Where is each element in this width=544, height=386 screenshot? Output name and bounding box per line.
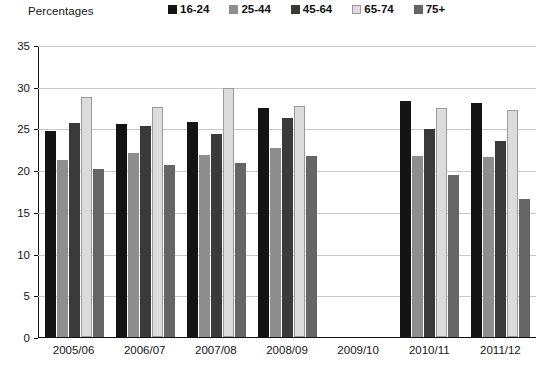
bar[interactable] xyxy=(448,175,459,337)
bar[interactable] xyxy=(69,123,80,337)
bar[interactable] xyxy=(282,118,293,337)
bar[interactable] xyxy=(211,134,222,337)
y-axis-tick-label: 30 xyxy=(0,82,30,94)
legend-label: 45-64 xyxy=(303,4,332,16)
x-axis-tick-label: 2006/07 xyxy=(109,344,180,364)
bar-group xyxy=(181,46,252,337)
x-axis-tick-label: 2009/10 xyxy=(323,344,394,364)
bar-group-bars xyxy=(110,46,181,337)
bar-group-bars xyxy=(394,46,465,337)
x-axis-line xyxy=(38,337,536,338)
legend-item[interactable]: 16-24 xyxy=(168,4,209,16)
x-axis-tick-label: 2011/12 xyxy=(465,344,536,364)
bar[interactable] xyxy=(412,156,423,337)
bar[interactable] xyxy=(116,124,127,337)
y-axis-tick-label: 5 xyxy=(0,290,30,302)
bar-chart: Percentages 16-2425-4445-6465-7475+ 0510… xyxy=(0,0,544,386)
y-axis-tick xyxy=(34,46,38,47)
bar[interactable] xyxy=(270,148,281,337)
legend-item[interactable]: 75+ xyxy=(414,4,446,16)
bar[interactable] xyxy=(235,163,246,337)
bar-groups xyxy=(39,46,536,337)
bar[interactable] xyxy=(294,106,305,337)
bar-group xyxy=(465,46,536,337)
x-axis-tick-label: 2010/11 xyxy=(394,344,465,364)
bar[interactable] xyxy=(306,156,317,337)
bar[interactable] xyxy=(471,103,482,337)
bar-group xyxy=(394,46,465,337)
bar-group xyxy=(323,46,394,337)
bar[interactable] xyxy=(507,110,518,337)
legend-swatch-icon xyxy=(414,5,423,14)
bar-group xyxy=(39,46,110,337)
bar-group xyxy=(110,46,181,337)
y-axis-title: Percentages xyxy=(28,5,94,17)
bar-group-bars xyxy=(252,46,323,337)
chart-legend: 16-2425-4445-6465-7475+ xyxy=(168,4,445,16)
bar[interactable] xyxy=(258,108,269,337)
bar-group-bars xyxy=(465,46,536,337)
bar[interactable] xyxy=(424,129,435,337)
legend-item[interactable]: 25-44 xyxy=(229,4,270,16)
y-axis-tick xyxy=(34,296,38,297)
bar[interactable] xyxy=(164,165,175,337)
bar[interactable] xyxy=(140,126,151,337)
legend-label: 25-44 xyxy=(241,4,270,16)
plot-area: 05101520253035 xyxy=(38,46,536,338)
legend-swatch-icon xyxy=(291,5,300,14)
y-axis-tick-label: 15 xyxy=(0,207,30,219)
bar[interactable] xyxy=(128,153,139,337)
legend-label: 65-74 xyxy=(364,4,393,16)
bar[interactable] xyxy=(199,155,210,337)
y-axis-tick xyxy=(34,213,38,214)
y-axis-tick xyxy=(34,129,38,130)
bar[interactable] xyxy=(400,101,411,337)
x-axis-tick-label: 2008/09 xyxy=(251,344,322,364)
bar[interactable] xyxy=(223,88,234,337)
bar[interactable] xyxy=(519,199,530,337)
legend-item[interactable]: 65-74 xyxy=(352,4,393,16)
bar[interactable] xyxy=(152,107,163,337)
y-axis-tick-label: 20 xyxy=(0,165,30,177)
legend-swatch-icon xyxy=(229,5,238,14)
legend-item[interactable]: 45-64 xyxy=(291,4,332,16)
bar-group xyxy=(252,46,323,337)
y-axis-tick xyxy=(34,338,38,339)
y-axis-tick-label: 35 xyxy=(0,40,30,52)
legend-label: 75+ xyxy=(426,4,446,16)
x-axis-tick-labels: 2005/062006/072007/082008/092009/102010/… xyxy=(38,344,536,364)
bar-group-bars xyxy=(181,46,252,337)
bar[interactable] xyxy=(436,108,447,337)
legend-swatch-icon xyxy=(352,5,361,14)
bar-group-bars xyxy=(323,46,394,337)
legend-label: 16-24 xyxy=(180,4,209,16)
bar-group-bars xyxy=(39,46,110,337)
y-axis-tick xyxy=(34,171,38,172)
bar[interactable] xyxy=(93,169,104,337)
bar[interactable] xyxy=(45,131,56,337)
bar[interactable] xyxy=(81,97,92,337)
y-axis-tick xyxy=(34,255,38,256)
x-axis-tick-label: 2005/06 xyxy=(38,344,109,364)
legend-swatch-icon xyxy=(168,5,177,14)
bar[interactable] xyxy=(483,157,494,337)
bar[interactable] xyxy=(495,141,506,337)
y-axis-tick-label: 10 xyxy=(0,249,30,261)
chart-header: Percentages 16-2425-4445-6465-7475+ xyxy=(0,0,544,30)
y-axis-tick-label: 0 xyxy=(0,332,30,344)
x-axis-tick-label: 2007/08 xyxy=(180,344,251,364)
bar[interactable] xyxy=(57,160,68,337)
bar[interactable] xyxy=(187,122,198,337)
y-axis-tick-label: 25 xyxy=(0,123,30,135)
y-axis-tick xyxy=(34,88,38,89)
